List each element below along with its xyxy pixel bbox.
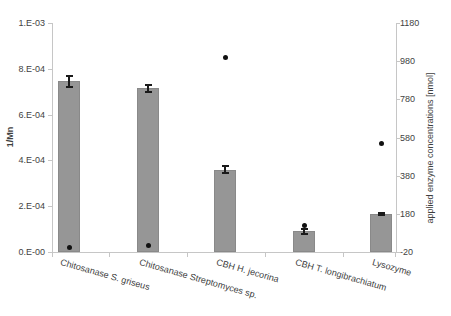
- y-axis-right-tick-label: 580: [400, 133, 440, 143]
- x-axis-category-label: Lysozyme: [371, 257, 412, 278]
- x-axis-tick-mark: [343, 253, 344, 257]
- bar-error-bar-cap: [301, 228, 308, 230]
- scatter-dot: [67, 245, 72, 250]
- x-axis-tick-mark: [395, 253, 396, 257]
- x-axis-tick-mark: [187, 253, 188, 257]
- y-axis-right-tick-label: 380: [400, 171, 440, 181]
- bar: [58, 81, 80, 252]
- y-axis-right-tick-mark: [396, 176, 400, 177]
- y-axis-left-tick-label: 1.E-03: [0, 18, 45, 28]
- y-axis-right-tick-mark: [396, 138, 400, 139]
- bar-error-bar-cap: [66, 75, 73, 77]
- y-axis-left-tick-mark: [48, 69, 52, 70]
- y-axis-left-tick-mark: [48, 115, 52, 116]
- bar: [370, 214, 392, 252]
- scatter-dot: [223, 55, 228, 60]
- bar-error-bar-cap: [222, 172, 229, 174]
- y-axis-right-tick-label: -20: [400, 247, 440, 257]
- y-axis-left-tick-mark: [48, 206, 52, 207]
- bar: [137, 88, 159, 252]
- scatter-dot: [379, 141, 384, 146]
- x-axis-tick-mark: [265, 253, 266, 257]
- bar-error-bar-cap: [145, 91, 152, 93]
- y-axis-right-tick-label: 980: [400, 56, 440, 66]
- y-axis-left-title: 1/Mn: [5, 127, 15, 148]
- bar: [214, 170, 236, 252]
- y-axis-right-tick-mark: [396, 61, 400, 62]
- x-axis-tick-mark: [52, 253, 53, 257]
- x-axis-tick-mark: [109, 253, 110, 257]
- y-axis-left-tick-mark: [48, 23, 52, 24]
- y-axis-left-tick-label: 6.E-04: [0, 110, 45, 120]
- bar-error-bar-cap: [378, 214, 385, 216]
- y-axis-right-tick-mark: [396, 23, 400, 24]
- y-axis-left-tick-label: 0.E-00: [0, 247, 45, 257]
- y-axis-right-tick-label: 1180: [400, 18, 440, 28]
- y-axis-right-tick-mark: [396, 214, 400, 215]
- scatter-dot: [146, 243, 151, 248]
- y-axis-right-tick-label: 180: [400, 209, 440, 219]
- y-axis-left-tick-mark: [48, 160, 52, 161]
- bar-error-bar-cap: [66, 86, 73, 88]
- chart: 1/Mn applied enzyme concentrations [nmol…: [0, 0, 451, 316]
- y-axis-right-tick-mark: [396, 252, 400, 253]
- y-axis-right-tick-mark: [396, 99, 400, 100]
- y-axis-left-tick-label: 4.E-04: [0, 155, 45, 165]
- bar-error-bar-cap: [145, 84, 152, 86]
- y-axis-right-tick-label: 780: [400, 94, 440, 104]
- bar-error-bar-cap: [301, 233, 308, 235]
- y-axis-left-tick-label: 2.E-04: [0, 201, 45, 211]
- bar-error-bar-cap: [222, 165, 229, 167]
- scatter-dot: [302, 223, 307, 228]
- y-axis-left-tick-label: 8.E-04: [0, 64, 45, 74]
- x-axis-category-label: Chitosanase S. griseus: [59, 257, 151, 292]
